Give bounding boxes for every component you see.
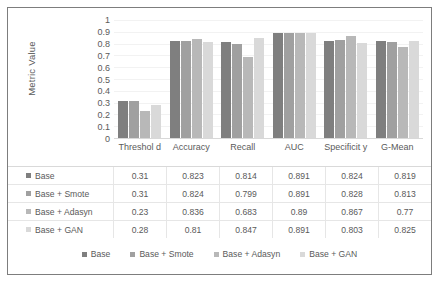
bar xyxy=(203,42,213,138)
bar xyxy=(335,40,345,138)
bar xyxy=(170,41,180,138)
bar xyxy=(243,57,253,138)
table-cell: 0.799 xyxy=(220,185,273,202)
bar xyxy=(387,42,397,138)
table-cell: 0.31 xyxy=(114,167,167,184)
table-cell: 0.89 xyxy=(273,203,326,220)
legend-label: Base + Smote xyxy=(139,249,193,259)
series-color-swatch-icon xyxy=(26,191,31,196)
legend-item: Base xyxy=(82,249,111,259)
table-row-label-cell: Base + Adasyn xyxy=(8,203,114,220)
bar xyxy=(376,41,386,138)
table-cell: 0.683 xyxy=(220,203,273,220)
legend-label: Base xyxy=(91,249,111,259)
bar xyxy=(221,42,231,138)
x-axis-category-label: Specificit y xyxy=(320,141,372,165)
bar-group xyxy=(269,20,321,138)
table-cell: 0.891 xyxy=(273,221,326,238)
legend-label: Base + Adasyn xyxy=(223,249,281,259)
x-axis-category-label: Accuracy xyxy=(166,141,218,165)
legend-label: Base + GAN xyxy=(309,249,357,259)
y-axis-tick: 0.3 xyxy=(97,99,110,108)
chart-frame: Metric Value 10.90.80.70.60.50.40.30.20.… xyxy=(7,7,432,275)
y-axis-tick: 0.1 xyxy=(97,123,110,132)
legend-item: Base + GAN xyxy=(300,249,357,259)
legend-item: Base + Adasyn xyxy=(214,249,281,259)
bar-group xyxy=(114,20,166,138)
bar xyxy=(357,43,367,138)
plot-area xyxy=(114,20,423,139)
table-cell: 0.836 xyxy=(167,203,220,220)
table-cell: 0.847 xyxy=(220,221,273,238)
table-cell: 0.31 xyxy=(114,185,167,202)
bar xyxy=(254,38,264,138)
table-cell: 0.81 xyxy=(167,221,220,238)
table-cell: 0.891 xyxy=(273,185,326,202)
x-axis-category-labels: Threshol dAccuracyRecallAUCSpecificit yG… xyxy=(114,141,423,165)
table-row: Base + Smote0.310.8240.7990.8910.8280.81… xyxy=(8,184,431,202)
bar-group xyxy=(372,20,424,138)
bar xyxy=(306,33,316,138)
x-axis-category-label: G-Mean xyxy=(372,141,424,165)
y-axis-tick: 0.7 xyxy=(97,51,110,60)
table-row: Base + Adasyn0.230.8360.6830.890.8670.77 xyxy=(8,202,431,220)
bar xyxy=(192,39,202,138)
table-row-label: Base + Smote xyxy=(35,189,89,199)
y-axis-tick-labels: 10.90.80.70.60.50.40.30.20.10 xyxy=(84,20,110,139)
x-axis-category-label: Threshol d xyxy=(114,141,166,165)
bar xyxy=(324,41,334,138)
table-cell: 0.819 xyxy=(379,167,431,184)
bar xyxy=(232,44,242,138)
bar-group xyxy=(166,20,218,138)
y-axis-tick: 0.5 xyxy=(97,75,110,84)
bar-group xyxy=(320,20,372,138)
y-axis-tick: 0.9 xyxy=(97,27,110,36)
bar xyxy=(118,101,128,138)
legend-color-swatch-icon xyxy=(214,252,219,257)
bar xyxy=(409,41,419,138)
legend-color-swatch-icon xyxy=(130,252,135,257)
table-row: Base0.310.8230.8140.8910.8240.819 xyxy=(8,166,431,184)
table-cell: 0.803 xyxy=(326,221,379,238)
table-cell: 0.28 xyxy=(114,221,167,238)
bar xyxy=(398,47,408,138)
table-cell: 0.824 xyxy=(326,167,379,184)
table-cell: 0.823 xyxy=(167,167,220,184)
table-row-label-cell: Base xyxy=(8,167,114,184)
y-axis-tick: 0.4 xyxy=(97,87,110,96)
legend-color-swatch-icon xyxy=(300,252,305,257)
table-cell: 0.825 xyxy=(379,221,431,238)
y-axis-tick: 1 xyxy=(105,16,110,25)
series-color-swatch-icon xyxy=(26,173,31,178)
chart-legend: BaseBase + SmoteBase + AdasynBase + GAN xyxy=(8,246,431,262)
bar xyxy=(295,33,305,138)
y-axis-tick: 0.8 xyxy=(97,39,110,48)
table-cell: 0.814 xyxy=(220,167,273,184)
table-row: Base + GAN0.280.810.8470.8910.8030.825 xyxy=(8,220,431,238)
bar xyxy=(181,41,191,138)
table-cell: 0.891 xyxy=(273,167,326,184)
table-row-label: Base + GAN xyxy=(35,225,83,235)
table-cell: 0.77 xyxy=(379,203,431,220)
table-row-label: Base + Adasyn xyxy=(35,207,93,217)
series-color-swatch-icon xyxy=(26,209,31,214)
table-cell: 0.828 xyxy=(326,185,379,202)
table-cell: 0.867 xyxy=(326,203,379,220)
x-axis-category-label: Recall xyxy=(217,141,269,165)
y-axis-tick: 0 xyxy=(105,135,110,144)
table-row-label-cell: Base + GAN xyxy=(8,221,114,238)
table-cell: 0.824 xyxy=(167,185,220,202)
bar xyxy=(273,33,283,138)
bar-groups xyxy=(114,20,423,138)
legend-color-swatch-icon xyxy=(82,252,87,257)
table-row-label: Base xyxy=(35,171,55,181)
table-cell: 0.813 xyxy=(379,185,431,202)
chart-plot-region: Metric Value 10.90.80.70.60.50.40.30.20.… xyxy=(8,11,431,168)
data-table: Base0.310.8230.8140.8910.8240.819Base + … xyxy=(8,166,431,238)
legend-item: Base + Smote xyxy=(130,249,193,259)
bar xyxy=(284,33,294,138)
y-axis-tick: 0.6 xyxy=(97,63,110,72)
bar xyxy=(346,36,356,138)
table-cell: 0.23 xyxy=(114,203,167,220)
y-axis-tick: 0.2 xyxy=(97,111,110,120)
